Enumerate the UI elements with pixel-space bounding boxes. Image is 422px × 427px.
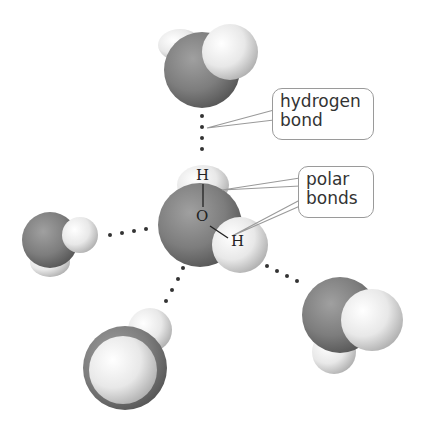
hydrogen-bond-dots-bottom-right xyxy=(265,264,299,283)
hydrogen-bond-dots-left xyxy=(108,227,148,237)
atom-label-oxygen: O xyxy=(196,209,208,224)
water-molecule-top xyxy=(158,24,258,108)
hydrogen-bond-dots-bottom-left xyxy=(164,266,185,303)
atom-label-hydrogen-top: H xyxy=(196,168,209,183)
callout-line-2: bonds xyxy=(306,189,366,208)
polar-bonds-callout: polar bonds xyxy=(298,166,374,218)
hydrogen-bond-callout: hydrogen bond xyxy=(272,88,374,140)
water-molecule-bottom-left xyxy=(83,308,172,410)
hydrogen-bond-dots-top xyxy=(200,114,204,151)
water-molecule-center xyxy=(158,165,268,273)
water-hydrogen-bond-diagram: H O H hydrogen bond polar bonds xyxy=(0,0,422,427)
callout-line-1: polar xyxy=(306,170,366,189)
callout-line-1: hydrogen xyxy=(280,92,366,111)
water-molecule-bottom-right xyxy=(302,277,403,374)
atom-label-hydrogen-right: H xyxy=(231,234,244,249)
water-molecule-left xyxy=(22,212,98,277)
callout-line-2: bond xyxy=(280,111,366,130)
